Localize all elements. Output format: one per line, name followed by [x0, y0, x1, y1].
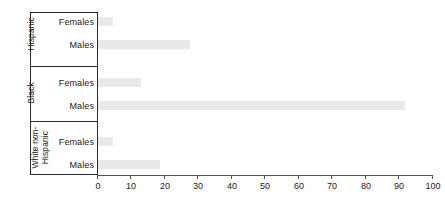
series-label-hispanic-females: Females [38, 17, 98, 27]
x-tick-60 [298, 175, 299, 179]
value-axis-zero-line [97, 12, 98, 175]
x-tick-label-0: 0 [83, 181, 113, 192]
x-tick-label-20: 20 [150, 181, 180, 192]
x-tick-label-90: 90 [384, 181, 414, 192]
bar-white-males [98, 160, 160, 169]
bar-hispanic-females [98, 17, 113, 26]
x-tick-label-70: 70 [317, 181, 347, 192]
x-tick-30 [197, 175, 198, 179]
x-tick-50 [264, 175, 265, 179]
bar-black-females [98, 78, 141, 87]
x-tick-label-40: 40 [217, 181, 247, 192]
x-tick-90 [398, 175, 399, 179]
x-tick-label-10: 10 [116, 181, 146, 192]
bar-black-males [98, 101, 405, 110]
x-tick-10 [130, 175, 131, 179]
x-tick-100 [432, 175, 433, 179]
group-divider-hispanic-black [30, 66, 98, 67]
x-tick-0 [97, 175, 98, 179]
x-tick-40 [231, 175, 232, 179]
x-tick-label-100: 100 [418, 181, 445, 192]
series-label-hispanic-males: Males [38, 40, 98, 50]
series-label-white-males: Males [38, 160, 98, 170]
bar-hispanic-males [98, 40, 190, 49]
x-axis-line [97, 175, 433, 176]
bar-white-females [98, 137, 113, 146]
x-tick-70 [331, 175, 332, 179]
x-tick-label-30: 30 [183, 181, 213, 192]
x-tick-label-80: 80 [351, 181, 381, 192]
x-tick-80 [365, 175, 366, 179]
series-label-black-females: Females [38, 78, 98, 88]
series-label-black-males: Males [38, 101, 98, 111]
x-tick-20 [164, 175, 165, 179]
x-tick-label-60: 60 [284, 181, 314, 192]
series-label-white-females: Females [38, 137, 98, 147]
x-tick-label-50: 50 [250, 181, 280, 192]
